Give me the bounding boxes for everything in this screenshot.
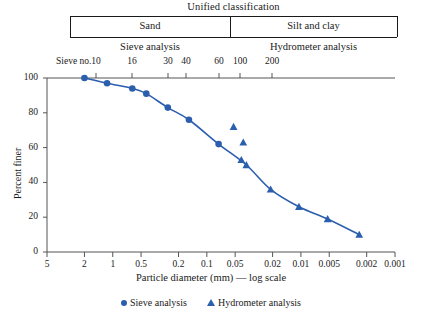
y-tick-label-20: 20 (14, 211, 38, 221)
table-divider (230, 16, 231, 37)
data-point-sieve-5 (186, 116, 193, 123)
y-tick-label-0: 0 (14, 246, 38, 256)
table-divider (397, 16, 398, 37)
data-point-hydrometer-1 (239, 138, 247, 145)
sieve-number-40: 40 (174, 56, 198, 66)
data-point-sieve-3 (143, 90, 150, 97)
table-divider (70, 16, 71, 37)
data-point-hydrometer-0 (230, 123, 238, 130)
y-tick-label-100: 100 (14, 72, 38, 82)
table-rule (70, 37, 397, 38)
data-point-sieve-1 (104, 80, 111, 87)
x-tick-label-0.001: 0.001 (373, 259, 417, 269)
sieve-number-10: 10 (84, 56, 108, 66)
legend-label-hydrometer: Hydrometer analysis (218, 297, 301, 308)
chart-legend: Sieve analysisHydrometer analysis (0, 296, 422, 308)
sieve-number-16: 16 (120, 56, 144, 66)
data-point-sieve-4 (165, 104, 172, 111)
y-tick-label-60: 60 (14, 142, 38, 152)
sieve-number-100: 100 (228, 56, 252, 66)
sieve-number-200: 200 (260, 56, 284, 66)
data-point-sieve-0 (81, 75, 88, 82)
y-tick-label-40: 40 (14, 176, 38, 186)
data-point-hydrometer-5 (295, 203, 303, 210)
circle-marker-icon (121, 300, 127, 306)
triangle-marker-icon (207, 299, 215, 306)
data-point-hydrometer-7 (355, 231, 363, 238)
y-axis-title: Percent finer (12, 148, 23, 199)
data-point-sieve-6 (215, 141, 222, 148)
x-axis-title: Particle diameter (mm) — log scale (0, 272, 422, 283)
y-tick-label-80: 80 (14, 107, 38, 117)
chart-figure: Unified classification Sand Silt and cla… (0, 0, 422, 322)
table-rule (70, 16, 397, 17)
legend-label-sieve: Sieve analysis (130, 297, 187, 308)
data-point-sieve-2 (129, 85, 136, 92)
distribution-curve (84, 78, 359, 235)
